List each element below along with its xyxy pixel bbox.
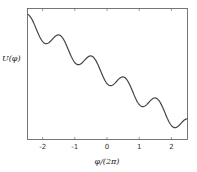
potential-curve bbox=[28, 14, 188, 127]
x-axis-tick-labels: -2-1012 bbox=[39, 143, 173, 151]
x-tick-label: 2 bbox=[169, 143, 173, 151]
x-tick-label: -1 bbox=[71, 143, 78, 151]
x-axis-ticks bbox=[43, 9, 172, 140]
x-tick-label: -2 bbox=[39, 143, 46, 151]
x-tick-label: 0 bbox=[105, 143, 109, 151]
plot-frame bbox=[28, 9, 188, 140]
washboard-potential-chart: -2-1012 φ/(2π) U(φ) bbox=[0, 0, 197, 172]
y-axis-label: U(φ) bbox=[2, 54, 21, 63]
x-tick-label: 1 bbox=[137, 143, 141, 151]
x-axis-label: φ/(2π) bbox=[95, 157, 120, 166]
